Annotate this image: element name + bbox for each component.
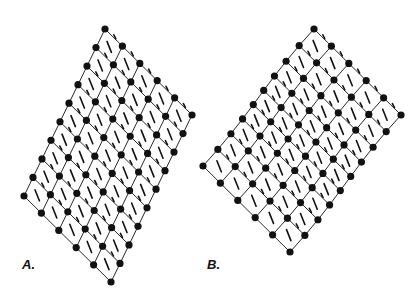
lattice-node — [119, 43, 126, 50]
lattice-node — [38, 155, 45, 162]
lattice-node — [47, 191, 54, 198]
lattice-node — [358, 158, 365, 165]
lattice-node — [288, 90, 295, 97]
lattice-node — [301, 232, 308, 239]
lattice-node — [348, 94, 355, 101]
lattice-node — [337, 187, 344, 194]
lattice-node — [347, 173, 354, 180]
lattice-node — [352, 126, 359, 133]
lattice-node — [302, 153, 309, 160]
lattice-node — [65, 154, 72, 161]
lattice-node — [126, 187, 133, 194]
lattice-node — [284, 215, 291, 222]
lattice-node — [74, 81, 81, 88]
lattice-node — [109, 115, 116, 122]
panel-label-a: A. — [22, 257, 35, 272]
lattice-node — [249, 180, 256, 187]
lattice-figure — [0, 0, 414, 298]
cell-dashes — [35, 35, 185, 270]
lattice-node — [317, 92, 324, 99]
lattice-node — [100, 134, 107, 141]
lattice-node — [282, 58, 289, 65]
lattice-panel-a — [20, 25, 195, 285]
lattice-node — [269, 231, 276, 238]
lattice-node — [117, 206, 124, 213]
lattice-node — [118, 151, 125, 158]
lattice-node — [65, 100, 72, 107]
lattice-node — [91, 153, 98, 160]
lattice-node — [199, 162, 206, 169]
lattice-node — [152, 186, 159, 193]
lattice-node — [56, 172, 63, 179]
lattice-node — [127, 78, 134, 85]
lattice-node — [369, 144, 376, 151]
lattice-node — [162, 113, 169, 120]
lattice-node — [47, 137, 54, 144]
lattice-node — [82, 171, 89, 178]
lattice-node — [296, 42, 303, 49]
lattice-node — [309, 184, 316, 191]
lattice-node — [295, 121, 302, 128]
lattice-node — [250, 101, 257, 108]
lattice-node — [260, 87, 267, 94]
lattice-node — [145, 96, 152, 103]
lattice-node — [179, 130, 186, 137]
lattice-node — [330, 76, 337, 83]
lattice-node — [92, 44, 99, 51]
lattice-node — [154, 77, 161, 84]
lattice-node — [100, 188, 107, 195]
lattice-node — [313, 59, 320, 66]
lattice-node — [73, 190, 80, 197]
lattice-node — [271, 72, 278, 79]
lattice-node — [29, 174, 36, 181]
lattice-node — [188, 111, 195, 118]
lattice-node — [136, 114, 143, 121]
lattice-node — [134, 223, 141, 230]
lattice-panel-b — [199, 25, 404, 255]
lattice-node — [328, 43, 335, 50]
lattice-node — [262, 165, 269, 172]
lattice-node — [107, 278, 114, 285]
lattice-node — [363, 77, 370, 84]
lattice-node — [73, 244, 80, 251]
lattice-node — [83, 63, 90, 70]
lattice-node — [227, 130, 234, 137]
lattice-node — [20, 192, 27, 199]
lattice-node — [319, 170, 326, 177]
lattice-node — [170, 149, 177, 156]
lattice-node — [245, 147, 252, 154]
lattice-node — [101, 25, 108, 32]
lattice-node — [252, 214, 259, 221]
lattice-node — [326, 201, 333, 208]
lattice-node — [83, 117, 90, 124]
lattice-node — [108, 224, 115, 231]
lattice-node — [232, 163, 239, 170]
lattice-node — [64, 208, 71, 215]
lattice-node — [109, 170, 116, 177]
lattice-node — [286, 248, 293, 255]
lattice-node — [55, 227, 62, 234]
lattice-node — [284, 135, 291, 142]
lattice-node — [217, 180, 224, 187]
lattice-node — [297, 199, 304, 206]
lattice-node — [239, 115, 246, 122]
lattice-node — [56, 118, 63, 125]
lattice-node — [397, 111, 404, 118]
lattice-node — [91, 207, 98, 214]
lattice-node — [38, 210, 45, 217]
lattice-node — [144, 150, 151, 157]
lattice-node — [266, 197, 273, 204]
lattice-node — [278, 104, 285, 111]
lattice-node — [280, 182, 287, 189]
lattice-node — [110, 61, 117, 68]
lattice-node — [234, 197, 241, 204]
lattice-node — [383, 128, 390, 135]
lattice-node — [335, 109, 342, 116]
lattice-node — [256, 133, 263, 140]
lattice-node — [116, 260, 123, 267]
lattice-node — [380, 94, 387, 101]
lattice-node — [310, 25, 317, 32]
lattice-node — [82, 225, 89, 232]
lattice-node — [90, 261, 97, 268]
lattice-node — [345, 60, 352, 67]
